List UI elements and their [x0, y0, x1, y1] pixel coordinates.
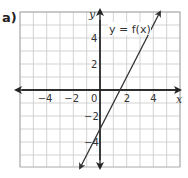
- y-tick-label: 2: [91, 59, 97, 70]
- x-axis-label: x: [176, 93, 183, 106]
- x-tick-label: 4: [150, 93, 156, 104]
- y-tick-label: 4: [91, 33, 97, 44]
- x-tick-label: −2: [64, 93, 79, 104]
- x-tick-label: −4: [38, 93, 53, 104]
- coordinate-plane: −4−202442−2−4 x y y = f(x): [0, 0, 188, 178]
- function-label: y = f(x): [109, 23, 151, 36]
- x-tick-label: 2: [124, 93, 130, 104]
- function-line-lower-arrow: [80, 129, 100, 168]
- y-axis-label: y: [88, 8, 96, 21]
- y-tick-label: −2: [84, 111, 99, 122]
- x-tick-label: 0: [91, 93, 97, 104]
